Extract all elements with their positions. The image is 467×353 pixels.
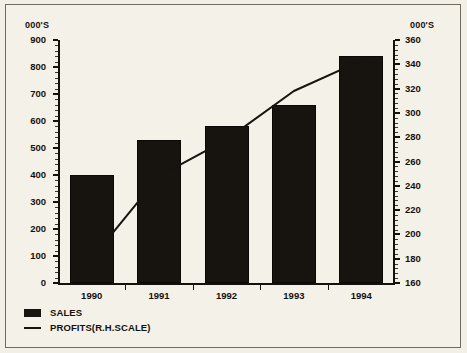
left-axis-tick-label: 600 (12, 116, 46, 126)
right-axis-tick (395, 233, 400, 235)
right-axis-tick (395, 112, 400, 114)
right-axis-minor-tick (395, 176, 398, 177)
right-axis-minor-tick (395, 273, 398, 274)
right-axis-minor-tick (395, 152, 398, 153)
right-axis-minor-tick (395, 225, 398, 226)
right-axis-minor-tick (395, 132, 398, 133)
legend-label-profits: PROFITS(R.H.SCALE) (50, 322, 151, 333)
right-axis-tick-label: 200 (405, 229, 439, 239)
right-axis-minor-tick (395, 74, 398, 75)
right-axis-tick (395, 136, 400, 138)
chart-legend: SALES PROFITS(R.H.SCALE) (24, 305, 151, 335)
right-axis-minor-tick (395, 244, 398, 245)
left-axis-tick-label: 800 (12, 62, 46, 72)
right-axis-tick-label: 240 (405, 181, 439, 191)
right-axis-minor-tick (395, 142, 398, 143)
right-axis-minor-tick (395, 171, 398, 172)
right-axis-tick (395, 39, 400, 41)
right-axis-tick (395, 282, 400, 284)
right-axis-tick (395, 161, 400, 163)
right-axis-minor-tick (395, 123, 398, 124)
right-axis-tick (395, 209, 400, 211)
plot-area: 0100200300400500600700800900 16018020022… (58, 40, 395, 283)
right-axis-minor-tick (395, 205, 398, 206)
left-axis-tick-label: 200 (12, 224, 46, 234)
right-axis-minor-tick (395, 230, 398, 231)
right-axis-minor-tick (395, 278, 398, 279)
right-axis-minor-tick (395, 249, 398, 250)
right-axis-tick-label: 320 (405, 84, 439, 94)
right-axis-minor-tick (395, 239, 398, 240)
legend-item-profits: PROFITS(R.H.SCALE) (24, 320, 151, 335)
right-axis-minor-tick (395, 55, 398, 56)
left-axis-tick-label: 700 (12, 89, 46, 99)
left-axis-tick-label: 500 (12, 143, 46, 153)
left-axis-tick-label: 900 (12, 35, 46, 45)
right-axis-minor-tick (395, 220, 398, 221)
right-axis-minor-tick (395, 93, 398, 94)
right-axis-minor-tick (395, 191, 398, 192)
right-axis-minor-tick (395, 147, 398, 148)
x-axis-label-1990: 1990 (62, 290, 122, 301)
right-axis-minor-tick (395, 215, 398, 216)
legend-swatch-icon-sales (24, 309, 41, 317)
x-axis-label-1991: 1991 (129, 290, 189, 301)
right-axis-minor-tick (395, 127, 398, 128)
right-axis-minor-tick (395, 45, 398, 46)
right-axis-minor-tick (395, 254, 398, 255)
legend-item-sales: SALES (24, 305, 151, 320)
right-axis-tick-label: 360 (405, 35, 439, 45)
right-axis-minor-tick (395, 108, 398, 109)
right-axis-minor-tick (395, 268, 398, 269)
right-axis-minor-tick (395, 181, 398, 182)
right-axis-minor-tick (395, 118, 398, 119)
right-axis-minor-tick (395, 157, 398, 158)
right-axis-tick-label: 340 (405, 59, 439, 69)
left-axis-tick-label: 100 (12, 251, 46, 261)
right-axis-tick-label: 180 (405, 254, 439, 264)
right-axis-minor-tick (395, 103, 398, 104)
right-axis-tick-label: 280 (405, 132, 439, 142)
right-axis-tick-label: 260 (405, 157, 439, 167)
left-axis-tick-label: 0 (12, 278, 46, 288)
right-axis-tick-label: 300 (405, 108, 439, 118)
left-axis-unit-caption: 000'S (25, 20, 49, 30)
right-axis-tick-label: 160 (405, 278, 439, 288)
x-axis-tick (260, 285, 261, 290)
legend-line-icon-profits (24, 327, 41, 329)
line-series-profits (58, 40, 395, 284)
right-axis-minor-tick (395, 98, 398, 99)
left-axis-tick-label: 300 (12, 197, 46, 207)
x-axis-tick (328, 285, 329, 290)
chart-page: 000'S 000'S 0100200300400500600700800900… (0, 0, 467, 353)
x-axis-tick (125, 285, 126, 290)
right-axis-tick (395, 88, 400, 90)
x-axis-label-1994: 1994 (331, 290, 391, 301)
right-axis-minor-tick (395, 196, 398, 197)
right-axis-minor-tick (395, 200, 398, 201)
right-axis-tick (395, 185, 400, 187)
right-axis-minor-tick (395, 84, 398, 85)
right-axis-tick (395, 258, 400, 260)
right-axis-minor-tick (395, 264, 398, 265)
legend-label-sales: SALES (50, 307, 82, 318)
right-axis-tick-label: 220 (405, 205, 439, 215)
right-axis-minor-tick (395, 166, 398, 167)
x-axis-label-1992: 1992 (197, 290, 257, 301)
right-axis-minor-tick (395, 50, 398, 51)
profits-line-path (92, 61, 362, 259)
right-axis-minor-tick (395, 69, 398, 70)
right-axis-unit-caption: 000'S (410, 20, 434, 30)
right-axis-minor-tick (395, 79, 398, 80)
left-axis-tick-label: 400 (12, 170, 46, 180)
x-axis-label-1993: 1993 (264, 290, 324, 301)
right-axis-tick (395, 63, 400, 65)
x-axis-tick (193, 285, 194, 290)
right-axis-minor-tick (395, 59, 398, 60)
